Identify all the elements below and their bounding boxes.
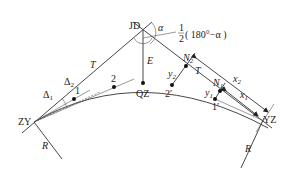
e-label: E — [146, 55, 153, 66]
delta2-label: Δ2 — [64, 76, 74, 89]
half-angle-num: 1 — [179, 22, 184, 33]
jd-label: JD — [129, 20, 140, 31]
y2-label: y2 — [167, 68, 176, 81]
x2-label: x2 — [232, 73, 241, 86]
left-tangent-line — [22, 22, 152, 133]
curve-layout-diagram: JD α 1 2 ( 180°−α ) T T E Δ2 Δ1 1 2 ZY Q… — [0, 0, 290, 182]
point-1-prime-label: 1′ — [212, 101, 219, 112]
r-label-right: R — [244, 143, 251, 154]
point-2-prime — [170, 83, 174, 87]
x2-dimension-line — [196, 58, 268, 112]
delta1-label: Δ1 — [43, 89, 53, 102]
alpha-angle-arc — [150, 23, 156, 44]
half-angle-expr: ( 180°−α ) — [185, 29, 227, 41]
qz-label: QZ — [136, 88, 149, 99]
point-2-label: 2 — [111, 73, 116, 84]
point-2 — [112, 85, 116, 89]
point-1 — [72, 97, 76, 101]
point-1-label: 1 — [75, 85, 80, 96]
r-label-left: R — [41, 140, 48, 151]
y1-label: y1 — [204, 87, 213, 100]
yz-label: YZ — [263, 114, 276, 125]
t-label-left: T — [90, 59, 97, 70]
point-n2 — [184, 64, 188, 68]
x1-label: x1 — [239, 89, 248, 102]
point-2-prime-label: 2′ — [165, 88, 172, 99]
half-angle-den: 2 — [179, 33, 184, 44]
delta2-angle-arc — [62, 98, 67, 108]
n1-label: N1 — [212, 77, 223, 90]
qz-point — [141, 81, 145, 85]
alpha-label: α — [158, 22, 164, 33]
zy-label: ZY — [18, 116, 31, 127]
